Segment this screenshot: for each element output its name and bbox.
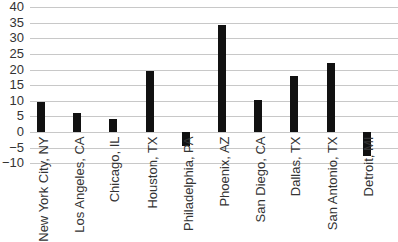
bar xyxy=(218,25,226,132)
x-tick-label: Chicago, IL xyxy=(108,137,121,203)
gridline xyxy=(30,70,398,71)
x-tick-label: San Antonio, TX xyxy=(326,137,339,231)
gridline xyxy=(30,23,398,24)
y-tick-label: 30 xyxy=(0,31,24,44)
x-tick-label: Philadelphia, PA xyxy=(182,137,195,231)
x-tick-label: Houston, TX xyxy=(146,137,159,209)
y-tick-label: 0 xyxy=(0,125,24,138)
gridline xyxy=(30,54,398,55)
bar-chart: 4035302520151050−5−10 New York City, NYL… xyxy=(0,0,398,239)
x-tick-label: Detroit, MI xyxy=(362,137,375,197)
y-tick-label: 20 xyxy=(0,63,24,76)
gridline xyxy=(30,132,398,133)
gridline xyxy=(30,116,398,117)
x-tick-label: New York City, NY xyxy=(37,137,50,242)
y-tick-label: −10 xyxy=(0,156,24,169)
x-tick-label: Phoenix, AZ xyxy=(218,137,231,207)
bar xyxy=(290,76,298,132)
bar xyxy=(109,119,117,132)
y-tick-label: 10 xyxy=(0,94,24,107)
bar xyxy=(146,71,154,132)
bar xyxy=(37,102,45,132)
y-tick-label: 40 xyxy=(0,0,24,13)
y-tick-label: 25 xyxy=(0,47,24,60)
bar xyxy=(254,100,262,132)
x-tick-label: Los Angeles, CA xyxy=(73,137,86,233)
gridline xyxy=(30,38,398,39)
x-tick-label: Dallas, TX xyxy=(289,137,302,197)
bar xyxy=(73,113,81,132)
gridline xyxy=(30,7,398,8)
gridline xyxy=(30,101,398,102)
bar xyxy=(327,63,335,132)
y-tick-label: 15 xyxy=(0,78,24,91)
y-tick-label: 5 xyxy=(0,109,24,122)
x-tick-label: San Diego, CA xyxy=(254,137,267,223)
gridline xyxy=(30,85,398,86)
y-tick-label: −5 xyxy=(0,141,24,154)
y-tick-label: 35 xyxy=(0,16,24,29)
